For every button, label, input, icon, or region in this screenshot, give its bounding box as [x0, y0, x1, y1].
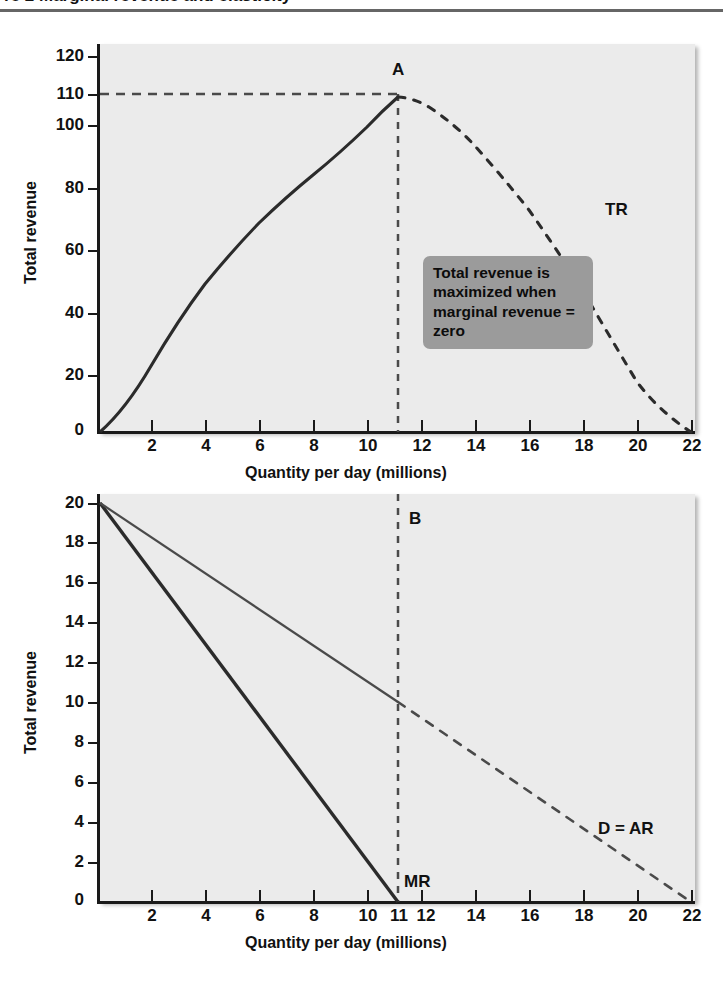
top-curve-svg [0, 12, 723, 482]
curve-label-tr: TR [605, 200, 628, 220]
bottom-curve-svg [0, 482, 723, 993]
point-label-a: A [392, 60, 404, 80]
marginal-revenue-panel: 20 18 16 14 12 10 8 6 4 2 0 Total revenu… [0, 482, 723, 993]
demand-line-dashed [398, 702, 691, 902]
demand-line-solid [100, 503, 398, 702]
curve-label-demand: D = AR [598, 819, 654, 839]
point-label-b: B [409, 509, 421, 529]
figure-caption: re 2 Marginal revenue and elasticity [4, 0, 291, 6]
figure-caption-strip: re 2 Marginal revenue and elasticity [0, 0, 723, 9]
callout-box: Total revenue is maximized when marginal… [423, 256, 593, 349]
figure-root: re 2 Marginal revenue and elasticity 120… [0, 0, 723, 993]
total-revenue-panel: 120 110 100 80 60 40 20 0 Total revenue … [0, 12, 723, 482]
curve-label-mr: MR [404, 872, 430, 892]
tr-curve-solid [100, 97, 398, 432]
mr-line [100, 503, 398, 902]
